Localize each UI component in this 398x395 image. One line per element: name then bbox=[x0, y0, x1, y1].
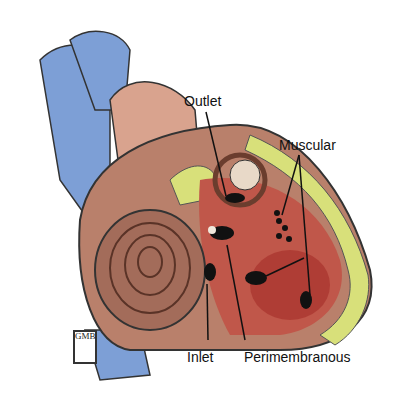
label-perimembranous: Perimembranous bbox=[244, 349, 351, 365]
heart-diagram: Outlet Muscular Inlet Perimembranous GMB bbox=[0, 0, 398, 395]
label-inlet: Inlet bbox=[187, 349, 213, 365]
artist-signature: GMB bbox=[73, 330, 97, 364]
label-outlet: Outlet bbox=[184, 93, 221, 109]
heart-illustration bbox=[0, 0, 398, 395]
label-muscular: Muscular bbox=[279, 137, 336, 153]
